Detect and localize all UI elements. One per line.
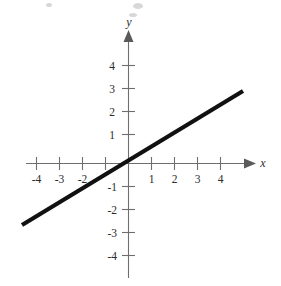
x-tick-label-neg4: -4 [32,173,42,185]
y-tick-label-1: 1 [109,129,115,141]
x-tick-label-4: 4 [218,173,224,185]
x-axis-label: x [259,156,266,170]
x-tick-label-2: 2 [172,173,178,185]
x-tick-label-3: 3 [195,173,201,185]
coordinate-plane: -4 -3 -2 1 2 3 4 4 3 2 1 -1 -2 -3 -4 x y [0,0,281,286]
x-axis [26,159,256,169]
graph-figure: -4 -3 -2 1 2 3 4 4 3 2 1 -1 -2 -3 -4 x y [0,0,281,286]
x-tick-label-neg3: -3 [55,173,65,185]
y-tick-labels: 4 3 2 1 -1 -2 -3 -4 [107,60,117,262]
y-axis-arrowhead [124,30,134,42]
y-tick-label-2: 2 [109,106,115,118]
x-tick-label-neg2: -2 [78,173,88,185]
y-tick-label-3: 3 [109,83,115,95]
y-axis-label: y [125,15,132,29]
y-axis [124,30,134,278]
y-tick-label-neg4: -4 [107,250,117,262]
y-tick-label-neg2: -2 [107,204,117,216]
x-tick-label-1: 1 [149,173,155,185]
y-tick-label-4: 4 [109,60,115,72]
x-tick-labels: -4 -3 -2 1 2 3 4 [32,173,224,185]
x-axis-arrowhead [244,159,256,169]
y-tick-label-neg1: -1 [107,181,117,193]
y-tick-label-neg3: -3 [107,227,117,239]
